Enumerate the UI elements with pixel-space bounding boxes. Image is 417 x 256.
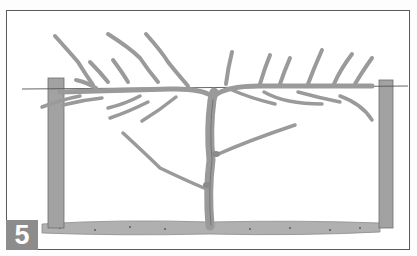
right-post — [379, 80, 393, 228]
vine-trellis-illustration — [0, 0, 417, 256]
step-number-badge: 5 — [6, 220, 38, 250]
left-cordon — [60, 89, 212, 96]
